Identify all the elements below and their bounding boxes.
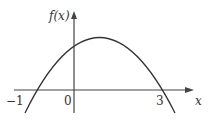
function-graph — [0, 0, 210, 120]
x-axis-label: x — [195, 95, 202, 107]
parabola-curve — [25, 38, 175, 114]
tick-label-3: 3 — [156, 95, 164, 107]
y-axis-arrow-icon — [71, 11, 77, 19]
x-axis-arrow-icon — [185, 87, 194, 93]
y-axis-label: f(x) — [49, 10, 70, 22]
tick-label-neg1: −1 — [6, 95, 24, 107]
tick-label-0: 0 — [64, 95, 72, 107]
